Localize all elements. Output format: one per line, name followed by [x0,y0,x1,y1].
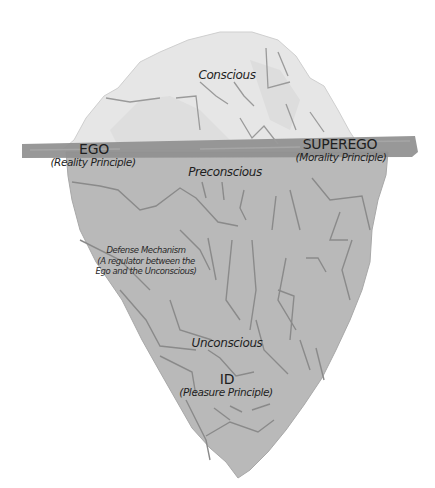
ego-label: EGO [79,142,109,156]
id-sublabel: (Pleasure Principle) [179,387,273,398]
iceberg-underwater-body [66,152,388,478]
superego-label: SUPEREGO [303,137,377,151]
defense-line-2: (A regulator between the [95,256,196,267]
iceberg-diagram: Conscious EGO (Reality Principle) SUPERE… [0,0,435,488]
ego-sublabel: (Reality Principle) [50,157,135,168]
id-label: ID [220,372,234,386]
superego-sublabel: (Morality Principle) [296,152,387,163]
defense-mechanism-label: Defense Mechanism (A regulator between t… [95,245,196,277]
preconscious-label: Preconscious [188,166,262,178]
unconscious-label: Unconscious [192,337,263,349]
conscious-label: Conscious [198,69,255,81]
defense-line-1: Defense Mechanism [95,245,196,256]
defense-line-3: Ego and the Unconscious) [95,266,196,277]
